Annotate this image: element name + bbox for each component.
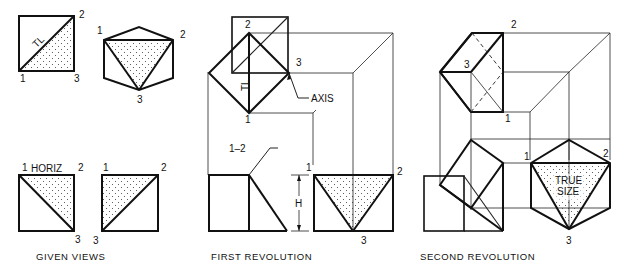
given-top-square: 2 1 3 TL <box>19 9 85 84</box>
label-3: 3 <box>93 235 99 246</box>
label-1: 1 <box>245 114 251 125</box>
label-2: 2 <box>180 29 186 40</box>
label-1: 1 <box>97 25 103 36</box>
true-size-line2: SIZE <box>557 186 580 197</box>
label-3: 3 <box>361 235 367 246</box>
label-3: 3 <box>75 234 81 245</box>
first-front-view: 1–2 H <box>209 143 309 231</box>
label-3: 3 <box>137 94 143 105</box>
label-1: 1 <box>103 162 109 173</box>
axis-label: AXIS <box>311 93 334 104</box>
label-3: 3 <box>74 73 80 84</box>
label-1: 1 <box>22 162 28 173</box>
label-2: 2 <box>161 162 167 173</box>
given-views: 2 1 3 TL 1 2 3 1 HORIZ 2 3 <box>19 9 186 262</box>
label-2: 2 <box>511 19 517 30</box>
label-1: 1 <box>524 151 530 162</box>
given-top-hexagon: 1 2 3 <box>97 25 186 105</box>
given-bottom-square-b: 1 2 3 <box>93 162 167 246</box>
height-label: H <box>295 198 302 209</box>
label-2: 2 <box>78 162 84 173</box>
caption-first-revolution: FIRST REVOLUTION <box>211 251 312 262</box>
first-revolution: 2 3 1 TL AXIS 1–2 H <box>208 17 403 262</box>
caption-second-revolution: SECOND REVOLUTION <box>420 251 535 262</box>
label-3: 3 <box>566 235 572 246</box>
given-bottom-square-a: 1 HORIZ 2 3 <box>19 162 84 245</box>
second-true-size-view: 1 2 3 TRUE SIZE <box>524 140 610 246</box>
label-1: 1 <box>306 162 312 173</box>
horiz-label: HORIZ <box>31 163 62 174</box>
label-2: 2 <box>603 148 609 159</box>
label-2: 2 <box>397 166 403 177</box>
label-3: 3 <box>296 57 302 68</box>
label-2: 2 <box>79 9 85 20</box>
label-3: 3 <box>464 59 470 70</box>
first-side-view: 1 2 3 <box>306 162 403 246</box>
label-1: 1 <box>505 113 511 124</box>
second-top-view: 2 3 1 <box>440 19 517 124</box>
true-size-line1: TRUE <box>555 175 583 186</box>
caption-given-views: GIVEN VIEWS <box>36 251 105 262</box>
label-2: 2 <box>245 19 251 30</box>
callout-1-2: 1–2 <box>229 143 246 154</box>
second-front-view <box>424 140 503 231</box>
revolution-diagram: 2 1 3 TL 1 2 3 1 HORIZ 2 3 <box>0 0 624 267</box>
second-revolution: 2 3 1 1 2 3 TRUE SIZE SEC <box>420 19 610 262</box>
label-1: 1 <box>20 73 26 84</box>
tl-label: TL <box>240 79 251 91</box>
